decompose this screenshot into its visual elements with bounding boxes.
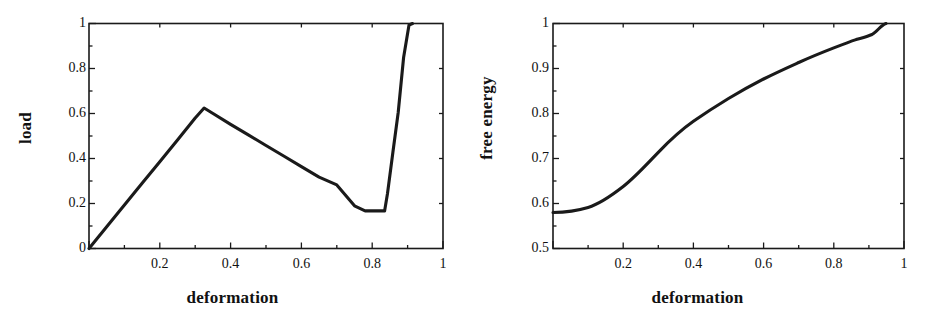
tick-marks	[553, 24, 904, 249]
x-tick-label: 0.8	[814, 256, 854, 272]
chart-free-energy-vs-deformation: 1 0.9 0.8 0.7 0.6 0.5 0.2 0.4 0.6 0.8 1 …	[465, 0, 930, 324]
y-tick-label: 0.6	[509, 195, 549, 211]
x-tick-label: 0.2	[603, 256, 643, 272]
y-tick-label: 0.4	[46, 150, 86, 166]
data-line-free-energy	[553, 24, 886, 213]
y-tick-label: 0.6	[46, 105, 86, 121]
x-tick-label: 0.4	[211, 256, 251, 272]
y-tick-label: 1	[46, 15, 86, 31]
x-tick-label: 1	[884, 256, 924, 272]
y-tick-label: 0.9	[509, 60, 549, 76]
y-tick-label: 0.2	[46, 195, 86, 211]
x-tick-label: 0.6	[281, 256, 321, 272]
tick-marks	[89, 24, 443, 249]
x-tick-label: 0.6	[744, 256, 784, 272]
y-tick-label: 0.5	[509, 240, 549, 256]
plot-frame	[89, 24, 443, 249]
y-tick-label: 1	[509, 15, 549, 31]
plot-frame	[553, 24, 904, 249]
data-line-load	[89, 24, 413, 249]
y-tick-label: 0.8	[46, 60, 86, 76]
x-tick-label: 0.8	[352, 256, 392, 272]
x-axis-title: deformation	[465, 288, 930, 308]
x-axis-title: deformation	[0, 288, 465, 308]
x-tick-label: 0.2	[140, 256, 180, 272]
x-tick-label: 1	[423, 256, 463, 272]
y-axis-title: free energy	[477, 48, 497, 188]
y-tick-label: 0	[46, 240, 86, 256]
chart-load-vs-deformation: 1 0.8 0.6 0.4 0.2 0 0.2 0.4 0.6 0.8 1 lo…	[0, 0, 465, 324]
y-tick-label: 0.7	[509, 150, 549, 166]
x-tick-label: 0.4	[673, 256, 713, 272]
y-axis-title: load	[16, 78, 36, 178]
y-tick-label: 0.8	[509, 105, 549, 121]
